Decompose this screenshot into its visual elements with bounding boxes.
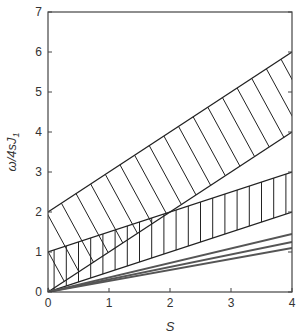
line-1 (48, 234, 292, 292)
hatch-line (296, 50, 306, 109)
y-tick-label: 3 (35, 165, 42, 179)
y-tick-label: 2 (35, 205, 42, 219)
y-axis-label-subscript: 1 (11, 133, 21, 138)
hatch-line (208, 107, 240, 166)
y-tick-label: 5 (35, 85, 42, 99)
x-tick-label: 2 (167, 296, 174, 310)
x-tick-label: 3 (228, 296, 235, 310)
y-tick-label: 1 (35, 245, 42, 259)
y-tick-label: 6 (35, 45, 42, 59)
x-tick-label: 4 (289, 296, 296, 310)
plot-area (18, 50, 307, 292)
hatch-line (149, 146, 181, 205)
x-tick-label: 1 (106, 296, 113, 310)
hatch-line (266, 69, 298, 128)
y-tick-label: 7 (35, 5, 42, 19)
y-tick-label: 4 (35, 125, 42, 139)
hatch-line (252, 78, 284, 137)
hatch-line (164, 136, 196, 195)
y-axis-label-main: ω/4sJ (4, 137, 19, 171)
hatch-line (193, 117, 225, 176)
line-3 (48, 248, 292, 292)
hatch-line (47, 213, 79, 272)
band-lower-edge (48, 212, 292, 292)
upper-band (18, 50, 307, 292)
y-tick-label: 0 (35, 285, 42, 299)
x-tick-label: 0 (45, 296, 52, 310)
hatch-line (18, 232, 50, 291)
hatch-line (237, 88, 269, 147)
hatch-line (135, 155, 167, 214)
hatch-line (91, 184, 123, 243)
x-axis-label: S (166, 319, 175, 334)
hatch-line (222, 98, 254, 157)
lower-band (48, 172, 292, 292)
y-axis-label: ω/4sJ1 (4, 133, 21, 172)
hatch-line (179, 126, 211, 185)
chart: 0123401234567 S ω/4sJ1 (0, 0, 306, 336)
hatch-line (281, 59, 306, 118)
hatch-line (120, 165, 152, 224)
band-upper-edge (48, 52, 292, 212)
